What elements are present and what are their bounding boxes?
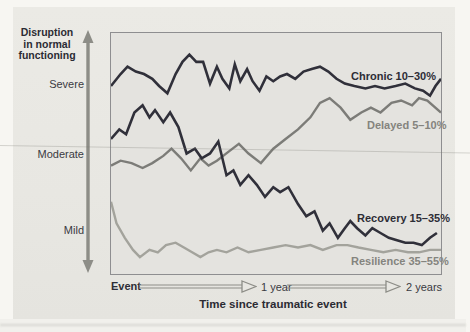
x-axis-origin-label: Event	[111, 280, 141, 292]
x-axis-arrow-1-icon	[139, 280, 257, 293]
plot-area	[110, 32, 442, 275]
y-axis-title: Disruption in normal functioning	[14, 27, 80, 62]
y-axis-title-line: functioning	[14, 50, 80, 62]
y-tick-moderate: Moderate	[10, 148, 84, 160]
series-line-delayed	[111, 98, 441, 170]
series-label-delayed: Delayed 5–10%	[367, 119, 447, 131]
x-axis-arrow-2-icon	[287, 280, 401, 293]
series-label-resilience: Resilience 35–55%	[351, 255, 449, 267]
series-label-chronic: Chronic 10–30%	[351, 70, 436, 82]
series-line-resilience	[111, 202, 441, 257]
y-tick-severe: Severe	[10, 78, 84, 90]
x-tick-2-years: 2 years	[406, 281, 442, 293]
y-tick-mild: Mild	[10, 224, 84, 236]
x-axis-title: Time since traumatic event	[160, 298, 386, 310]
page-edge-shadow	[0, 324, 466, 326]
y-axis-title-line: Disruption	[14, 27, 80, 39]
series-label-recovery: Recovery 15–35%	[357, 212, 450, 224]
